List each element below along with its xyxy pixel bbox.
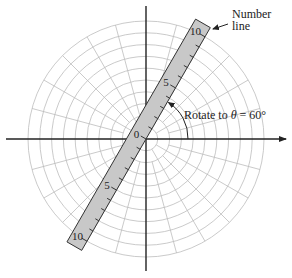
number-line-label: Number line [232, 8, 271, 32]
number-line-pointer-arrow-icon [213, 24, 228, 29]
rotate-annotation: Rotate to θ = 60° [184, 109, 266, 121]
number-line-tick-label: 5 [163, 76, 169, 88]
number-line-tick-label: 0 [134, 128, 140, 140]
number-line-label-line2: line [232, 20, 271, 32]
number-line-strip: 0510510 [67, 19, 210, 250]
grid-radial-line [32, 108, 123, 132]
polar-diagram: 0510510 [0, 0, 292, 278]
rotate-prefix: Rotate to [184, 108, 231, 122]
grid-radial-line [152, 162, 176, 253]
number-line-tick-label: 10 [72, 230, 84, 242]
grid-radial-line [115, 25, 139, 116]
grid-radial-line [32, 145, 123, 169]
number-line-tick-label: 5 [104, 179, 110, 191]
grid-radial-line [169, 145, 260, 169]
number-line-tick-label: 10 [190, 25, 202, 37]
grid-radial-line [163, 156, 230, 223]
grid-radial-line [63, 56, 130, 123]
rotate-suffix: = 60° [237, 108, 267, 122]
